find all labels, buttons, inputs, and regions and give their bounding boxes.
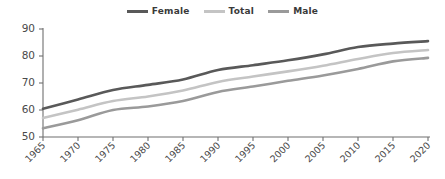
plot-area: 5060708090 19651970197519801985199019952… [0,0,445,179]
series-line-female [43,41,428,109]
y-tick-label: 50 [22,130,35,142]
x-axis-tick-labels: 1965197019751980198519901995200020052010… [23,140,433,165]
x-tick-label: 1970 [58,140,83,165]
y-tick-label: 80 [22,49,35,61]
x-tick-label: 1985 [163,140,188,165]
series-line-total [43,50,428,118]
x-tick-label: 2000 [268,140,293,165]
x-tick-label: 2015 [373,140,398,165]
line-chart: Female Total Male 5060708090 19651970197… [0,0,445,179]
x-axis-ticks [43,137,428,141]
x-tick-label: 1975 [93,140,118,165]
y-axis-ticks [39,29,43,137]
x-tick-label: 2020 [408,140,433,165]
x-tick-label: 1980 [128,140,153,165]
x-tick-label: 2005 [303,140,328,165]
y-tick-label: 70 [22,76,35,88]
y-axis-tick-labels: 5060708090 [22,22,35,142]
y-tick-label: 90 [22,22,35,34]
x-tick-label: 1990 [198,140,223,165]
series-lines [43,41,428,128]
y-tick-label: 60 [22,103,35,115]
x-tick-label: 2010 [338,140,363,165]
x-tick-label: 1965 [23,140,48,165]
x-tick-label: 1995 [233,140,258,165]
